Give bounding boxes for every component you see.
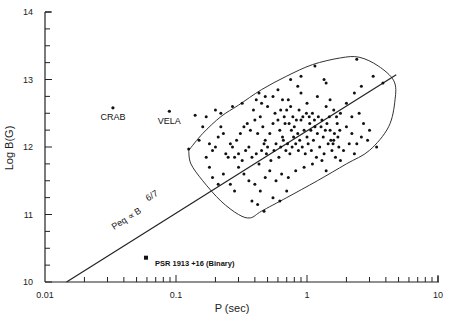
pulsar-point xyxy=(325,169,328,172)
pulsar-point xyxy=(330,149,333,152)
pulsar-point xyxy=(307,142,310,145)
pulsar-point xyxy=(285,108,288,111)
vela-label: VELA xyxy=(158,116,181,126)
pulsar-point xyxy=(306,102,309,105)
pulsar-point xyxy=(328,115,331,118)
pulsar-point xyxy=(300,75,303,78)
pulsar-point xyxy=(239,132,242,135)
pulsar-point xyxy=(276,119,279,122)
pulsar-point xyxy=(227,156,230,159)
pulsar-point xyxy=(353,152,356,155)
pulsar-point xyxy=(329,139,332,142)
pulsar-point xyxy=(295,119,298,122)
pulsar-point xyxy=(277,156,280,159)
pulsar-point xyxy=(334,156,337,159)
pulsar-point xyxy=(237,166,240,169)
pulsar-point xyxy=(308,115,311,118)
pulsar-point xyxy=(205,156,208,159)
pulsar-point xyxy=(355,58,358,61)
pulsar-point xyxy=(287,98,290,101)
y-tick-label: 12 xyxy=(23,142,33,152)
pulsar-point xyxy=(249,129,252,132)
pulsar-point xyxy=(264,176,267,179)
pulsar-point xyxy=(288,152,291,155)
pulsar-point xyxy=(350,132,353,135)
pulsar-point xyxy=(257,92,260,95)
pulsar-point xyxy=(224,152,227,155)
pulsar-point xyxy=(313,119,316,122)
pulsar-point xyxy=(275,142,278,145)
pulsar-point xyxy=(323,78,326,81)
pulsar-point xyxy=(268,169,271,172)
pulsar-point xyxy=(289,78,292,81)
pulsar-point xyxy=(194,114,197,117)
pulsar-point xyxy=(229,142,232,145)
pulsar-point xyxy=(265,152,268,155)
x-axis-title: P (sec) xyxy=(215,302,250,314)
pulsar-point xyxy=(300,119,303,122)
pulsar-point xyxy=(372,75,375,78)
pulsar-point xyxy=(280,173,283,176)
pulsar-point xyxy=(333,132,336,135)
pulsar-point xyxy=(253,119,256,122)
pulsar-point xyxy=(317,115,320,118)
pulsar-point xyxy=(316,132,319,135)
pulsar-point xyxy=(300,92,303,95)
pulsar-point xyxy=(250,200,253,203)
pulsar-point xyxy=(285,189,288,192)
pulsar-point xyxy=(287,176,290,179)
pulsar-point xyxy=(325,105,328,108)
annotations: CRABVELAPSR 1913 +16 (Binary)Peq ∝ B6/7 xyxy=(100,112,234,268)
pulsar-point xyxy=(303,129,306,132)
pulsar-point xyxy=(222,132,225,135)
pulsar-point xyxy=(381,81,384,84)
pulsar-point xyxy=(337,146,340,149)
pulsar-point xyxy=(231,105,234,108)
pulsar-point xyxy=(322,135,325,138)
pulsar-point xyxy=(320,125,323,128)
pulsar-point xyxy=(310,149,313,152)
pulsar-point xyxy=(362,122,365,125)
pulsar-point xyxy=(257,162,260,165)
pulsar-point xyxy=(292,135,295,138)
pulsar-point xyxy=(208,142,211,145)
pulsar-point xyxy=(269,159,272,162)
pulsar-point xyxy=(266,105,269,108)
pulsar-point xyxy=(298,139,301,142)
pulsar-point xyxy=(274,112,277,115)
pulsar-point xyxy=(217,183,220,186)
pulsar-point xyxy=(260,149,263,152)
pulsar-point xyxy=(279,146,282,149)
pulsar-point xyxy=(293,125,296,128)
pulsar-point xyxy=(271,196,274,199)
pulsar-point xyxy=(237,152,240,155)
pulsar-point xyxy=(281,135,284,138)
pulsar-point xyxy=(360,135,363,138)
pulsar-point xyxy=(264,95,267,98)
pulsar-point xyxy=(273,149,276,152)
pulsar-point xyxy=(332,139,335,142)
pulsar-point xyxy=(256,203,259,206)
pulsar-point xyxy=(316,95,319,98)
pulsar-point xyxy=(242,125,245,128)
pulsar-point xyxy=(278,200,281,203)
y-tick-label: 13 xyxy=(23,75,33,85)
pulsar-point xyxy=(290,129,293,132)
pulsar-point xyxy=(368,129,371,132)
pulsar-point xyxy=(247,179,250,182)
pulsar-point xyxy=(329,98,332,101)
pulsar-point xyxy=(217,135,220,138)
pulsar-point xyxy=(261,125,264,128)
pulsar-point xyxy=(268,132,271,135)
pulsar-point xyxy=(241,102,244,105)
line-label-exponent: 6/7 xyxy=(144,188,160,203)
pulsar-point xyxy=(201,125,204,128)
pulsar-point xyxy=(358,112,361,115)
pulsar-point xyxy=(345,102,348,105)
pulsar-point xyxy=(247,146,250,149)
pulsar-point xyxy=(263,142,266,145)
pulsar-point xyxy=(313,125,316,128)
pulsar-point xyxy=(355,142,358,145)
pulsar-point xyxy=(325,122,328,125)
pulsar-point xyxy=(315,156,318,159)
